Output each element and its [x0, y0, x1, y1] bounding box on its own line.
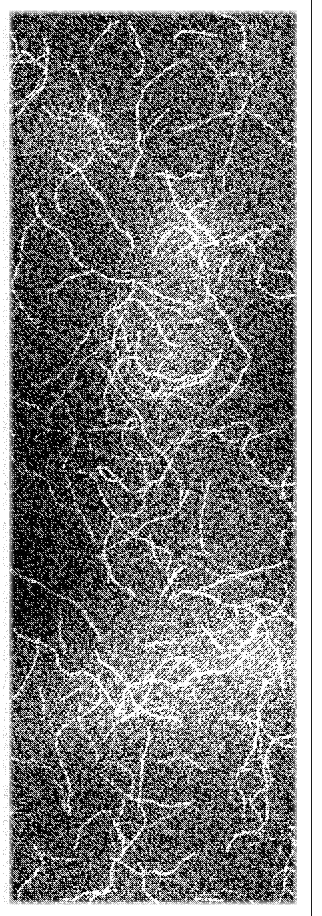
- vertical-column-rule: [311, 0, 312, 916]
- figure-halftone-noise-field: [9, 10, 297, 905]
- scanned-page: [0, 0, 322, 916]
- halftone-noise-canvas: [9, 10, 297, 905]
- left-margin-speckle: [3, 10, 8, 905]
